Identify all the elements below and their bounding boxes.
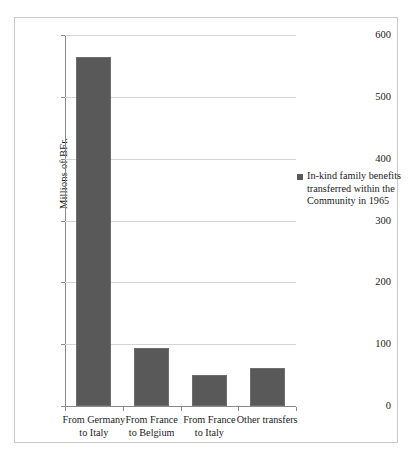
y-axis-tick-label: 500 [355,92,397,102]
bar [250,368,285,406]
x-axis-tick [296,407,297,411]
bar [192,375,227,406]
x-axis-label-line: to Italy [175,427,245,440]
legend-label: In-kind family benefits transferred with… [307,170,409,208]
y-axis-tick-label: 400 [355,154,397,164]
y-axis-tick-label: 200 [355,277,397,287]
x-axis-tick [65,407,66,411]
x-axis-tick [123,407,124,411]
bar [134,348,169,406]
x-axis-label-line: Other transfers [232,414,302,427]
chart-frame: Millions of BFr. 0100200300400500600 Fro… [14,17,398,443]
bar [76,57,111,406]
plot-area [65,35,296,406]
chart-legend: In-kind family benefits transferred with… [297,170,409,208]
y-axis-tick-label: 0 [355,401,397,411]
y-axis-tick-label: 100 [355,339,397,349]
x-axis-tick [181,407,182,411]
legend-swatch-icon [297,174,303,180]
x-axis-label: Other transfers [232,414,302,427]
gridline [65,35,296,36]
y-axis-tick-label: 300 [355,216,397,226]
x-axis-tick [238,407,239,411]
y-axis-tick-label: 600 [355,30,397,40]
